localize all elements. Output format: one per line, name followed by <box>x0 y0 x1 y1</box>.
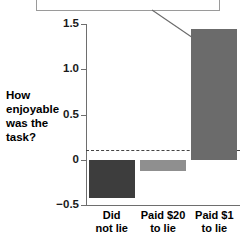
y-tick-label: 1.0 <box>63 63 79 75</box>
y-tick-label: 1.5 <box>63 18 79 30</box>
bar-did-not-lie <box>89 160 135 198</box>
y-tick-mark <box>81 24 87 25</box>
y-tick-mark <box>81 115 87 116</box>
y-axis-title-line-4: task? <box>6 130 78 144</box>
y-tick-mark <box>81 205 87 206</box>
bar-paid-20-to-lie <box>140 160 186 171</box>
x-axis-line <box>86 205 240 206</box>
x-category-label: Paid $1 to lie <box>189 209 240 236</box>
bar-paid-1-to-lie <box>191 29 237 160</box>
y-axis-title-line-1: How <box>6 88 78 102</box>
y-tick-label: 0 <box>73 154 79 166</box>
callout-box: How pleasant was the task that was done? <box>36 0 220 11</box>
y-tick-label: −0.5 <box>56 199 79 211</box>
x-category-label: Paid $20 to lie <box>137 209 188 236</box>
bar-chart: How pleasant was the task that was done?… <box>0 0 243 242</box>
y-tick-mark <box>81 69 87 70</box>
y-tick-label: 0.5 <box>63 109 79 121</box>
x-category-label: Did not lie <box>86 209 137 236</box>
y-tick-mark <box>81 160 87 161</box>
